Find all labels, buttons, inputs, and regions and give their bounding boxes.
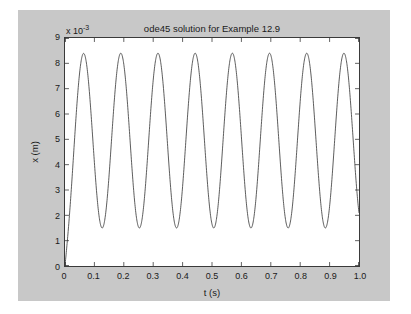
- y-tick-label: 1: [38, 236, 60, 246]
- x-tick-label: 0: [61, 271, 66, 281]
- y-tick-label: 0: [38, 262, 60, 272]
- x-tick-label: 0.1: [87, 271, 100, 281]
- y-tick-label: 3: [38, 185, 60, 195]
- x-tick-label: 0.2: [117, 271, 130, 281]
- x-tick-label: 0.6: [235, 271, 248, 281]
- x-tick-label: 0.4: [176, 271, 189, 281]
- plot-axes-box: [64, 37, 360, 267]
- y-tick-label: 9: [38, 32, 60, 42]
- x-tick-label: 1.0: [354, 271, 367, 281]
- y-tick-label: 8: [38, 58, 60, 68]
- chart-title: ode45 solution for Example 12.9: [64, 23, 360, 34]
- x-tick-label: 0.5: [206, 271, 219, 281]
- x-tick-label: 0.9: [324, 271, 337, 281]
- x-axis-label: t (s): [64, 287, 360, 298]
- y-tick-label: 2: [38, 211, 60, 221]
- y-tick-label: 5: [38, 134, 60, 144]
- screenshot-root: The residual is calculated by subtractio…: [0, 0, 411, 314]
- x-tick-label: 0.3: [147, 271, 160, 281]
- x-tick-label: 0.8: [295, 271, 308, 281]
- plot-svg: [65, 38, 359, 266]
- matlab-figure-canvas: x 10-3 ode45 solution for Example 12.9 0…: [18, 10, 390, 301]
- y-axis-label: x (m): [29, 141, 40, 163]
- data-series-line: [65, 53, 359, 266]
- y-tick-label: 4: [38, 160, 60, 170]
- axis-ticks: [65, 38, 359, 266]
- y-tick-label: 7: [38, 83, 60, 93]
- x-tick-label: 0.7: [265, 271, 278, 281]
- y-tick-label: 6: [38, 109, 60, 119]
